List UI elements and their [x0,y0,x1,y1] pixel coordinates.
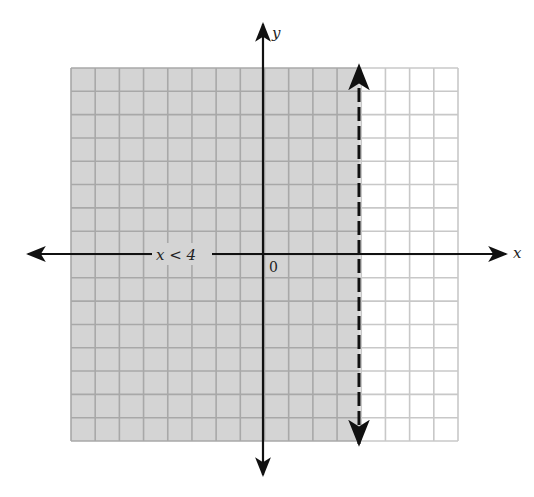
y-axis-label: y [271,24,281,42]
origin-label: 0 [269,259,278,275]
inequality-label: x < 4 [156,246,196,264]
x-axis-label: x [513,244,522,262]
inequality-graph: x < 4 0 x y [0,0,534,497]
